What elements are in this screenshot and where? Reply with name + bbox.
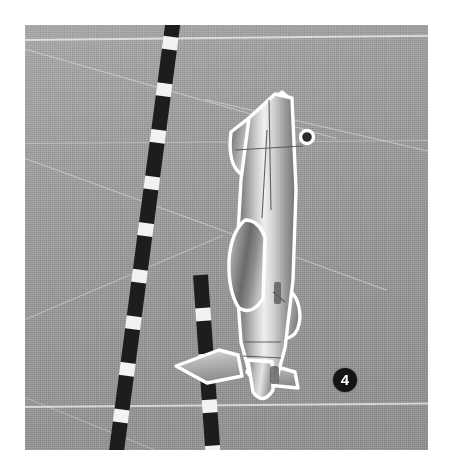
photo-plate: 4 (25, 25, 428, 450)
access-panel-2 (270, 366, 279, 384)
jet-aircraft (135, 70, 335, 410)
canopy (229, 220, 265, 310)
figure-frame: 4 (0, 0, 454, 474)
antenna-probe (301, 131, 314, 144)
wing-left (176, 350, 242, 383)
access-panel (274, 282, 281, 304)
nose (248, 360, 273, 399)
figure-number-badge: 4 (333, 368, 357, 392)
